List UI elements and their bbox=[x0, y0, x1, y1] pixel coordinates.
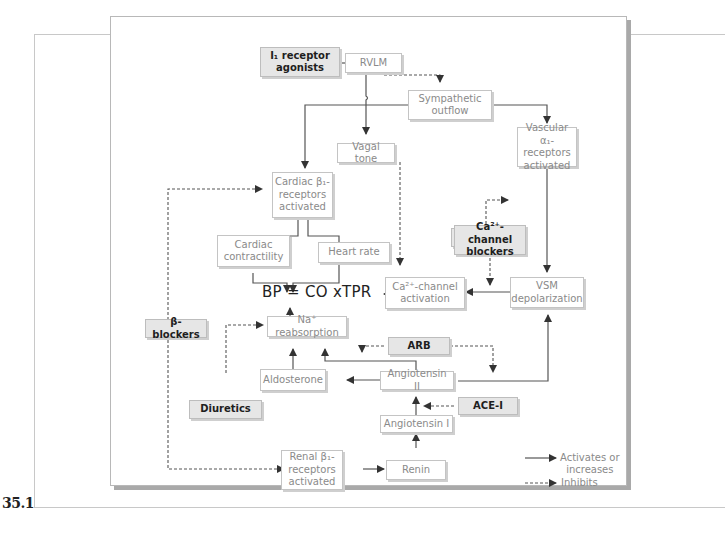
sympathetic-outflow-box: Sympathetic outflow bbox=[408, 90, 492, 120]
rvlm-box: RVLM bbox=[345, 53, 402, 73]
i1-agonists-box: I₁ receptor agonists bbox=[260, 47, 340, 77]
diuretics-box: Diuretics bbox=[189, 400, 262, 419]
vsm-depolarization-box: VSM depolarization bbox=[510, 277, 584, 308]
vagal-tone-box: Vagal tone bbox=[337, 143, 395, 163]
renal-beta1-box: Renal β₁- receptors activated bbox=[281, 450, 343, 490]
arb-box: ARB bbox=[388, 337, 450, 355]
na-reabsorption-box: Na⁺ reabsorption bbox=[267, 316, 347, 337]
aldosterone-box: Aldosterone bbox=[260, 369, 326, 391]
legend-inhibits-label: Inhibits bbox=[561, 477, 598, 489]
vascular-alpha1-box: Vascular α₁- receptors activated bbox=[517, 127, 577, 167]
renin-box: Renin bbox=[386, 460, 446, 480]
heart-rate-box: Heart rate bbox=[318, 242, 390, 263]
cardiac-beta1-box: Cardiac β₁- receptors activated bbox=[272, 172, 333, 218]
angiotensin-i-box: Angiotensin I bbox=[380, 415, 453, 433]
cardiac-contractility-box: Cardiac contractility bbox=[217, 235, 290, 267]
legend-activates-label: Activates or increases bbox=[560, 452, 620, 476]
ace-i-box: ACE-I bbox=[458, 397, 518, 415]
beta-blockers-box: β-blockers bbox=[145, 319, 207, 338]
angiotensin-ii-box: Angiotensin II bbox=[380, 371, 454, 390]
bp-equation: BP = CO xTPR bbox=[262, 283, 372, 301]
ca-activation-box: Ca²⁺-channel activation bbox=[385, 277, 465, 309]
ca-blockers-box: Ca²⁺-channel blockers bbox=[454, 225, 526, 255]
